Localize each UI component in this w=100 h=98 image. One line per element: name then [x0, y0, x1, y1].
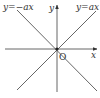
label-pos-ax: y=ax — [75, 2, 99, 12]
origin-label: O — [59, 52, 66, 62]
origin-point — [55, 47, 58, 50]
x-axis-label: x — [91, 50, 96, 60]
label-neg-ax: y=−ax — [2, 2, 34, 12]
y-axis-label: y — [48, 3, 55, 13]
coordinate-diagram: y=−ax y=ax y x O — [0, 0, 100, 98]
